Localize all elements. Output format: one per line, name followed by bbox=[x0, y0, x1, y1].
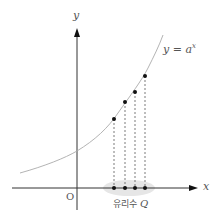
rational-set-label: 유리수 Q bbox=[113, 199, 148, 209]
y-axis-arrow-icon bbox=[74, 28, 80, 37]
origin-label: O bbox=[66, 192, 74, 202]
axis-point bbox=[133, 186, 137, 190]
curve-label-exponent: x bbox=[192, 42, 196, 50]
curve-label-base: y = a bbox=[163, 43, 192, 56]
curve-point bbox=[143, 74, 147, 78]
x-axis-label: x bbox=[203, 181, 209, 192]
curve-point bbox=[123, 100, 127, 104]
curve-point bbox=[133, 90, 137, 94]
curve-label: y = ax bbox=[163, 43, 196, 55]
axis-point bbox=[112, 186, 116, 190]
exponential-diagram bbox=[0, 0, 218, 221]
curve-point bbox=[112, 117, 116, 121]
axis-point bbox=[143, 186, 147, 190]
x-axis-arrow-icon bbox=[189, 185, 198, 191]
rational-korean-label: 유리수 bbox=[113, 199, 137, 209]
rational-symbol-label: Q bbox=[140, 198, 148, 209]
y-axis-label: y bbox=[73, 10, 79, 21]
exponential-curve bbox=[20, 35, 163, 173]
axis-point bbox=[123, 186, 127, 190]
